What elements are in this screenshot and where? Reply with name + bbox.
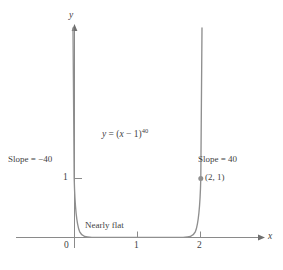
x-tick-label-2: 2	[197, 241, 202, 251]
y-axis-label: y	[69, 11, 73, 21]
left-slope-annotation: Slope = −40	[8, 155, 52, 164]
equation-constant: − 1)	[124, 129, 142, 139]
y-tick-label-1: 1	[63, 173, 68, 183]
equation-label: y = (x − 1)40	[102, 128, 148, 140]
function-graph-figure: y x 0 1 2 1 y = (x − 1)40 Slope = −40 Sl…	[0, 0, 283, 270]
right-slope-annotation: Slope = 40	[198, 155, 237, 164]
equation-exponent: 40	[142, 127, 149, 134]
point-marker-2-1	[198, 176, 203, 181]
x-tick-label-0: 0	[64, 241, 69, 251]
equation-operator: = (	[106, 129, 119, 139]
nearly-flat-annotation: Nearly flat	[85, 221, 124, 230]
point-label-2-1: (2, 1)	[205, 173, 225, 182]
x-tick-label-1: 1	[134, 241, 139, 251]
x-axis-label: x	[268, 232, 272, 242]
